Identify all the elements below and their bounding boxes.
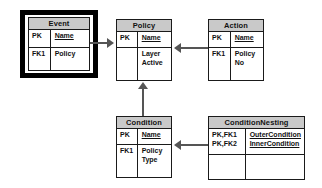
- entity-conditionnesting-attribute-list: OuterCondition InnerCondition: [246, 129, 304, 154]
- entity-policy-body-key: [117, 48, 138, 81]
- entity-event[interactable]: Event PK Name FK1 Policy: [28, 17, 90, 71]
- entity-policy-attr-section: Layer Active: [117, 48, 171, 81]
- entity-condition-attribute-1: Policy: [142, 147, 169, 156]
- entity-event-fk-attribute: Policy: [51, 48, 89, 71]
- entity-action-title: Action: [209, 20, 263, 32]
- entity-condition[interactable]: Condition PK Name FK1 Policy Type: [116, 116, 172, 178]
- entity-policy-pk-attribute: Name: [138, 32, 171, 47]
- entity-event-title: Event: [29, 18, 89, 30]
- entity-policy-key-section: PK Name: [117, 32, 171, 48]
- entity-action-attr-section: FK1 Policy No: [209, 48, 263, 81]
- entity-conditionnesting-attr-section: [209, 155, 304, 179]
- entity-event-key-section: PK Name: [29, 30, 89, 48]
- entity-action-attribute-2: No: [235, 59, 261, 68]
- entity-policy-pk-key: PK: [117, 32, 138, 47]
- entity-policy-title: Policy: [117, 20, 171, 32]
- entity-policy-attribute-1: Layer: [142, 50, 169, 59]
- entity-event-attr-section: FK1 Policy: [29, 48, 89, 71]
- relationship-arrow-action-policy: [174, 43, 181, 53]
- entity-conditionnesting-title: ConditionNesting: [209, 117, 304, 129]
- entity-conditionnesting-key-list: PK,FK1 PK,FK2: [209, 129, 246, 154]
- entity-condition-attribute-list: Policy Type: [138, 145, 171, 178]
- entity-policy[interactable]: Policy PK Name Layer Active: [116, 19, 172, 81]
- entity-condition-key-section: PK Name: [117, 129, 171, 145]
- entity-conditionnesting-key-1: PK,FK1: [212, 131, 243, 140]
- entity-action-attribute-1: Policy: [235, 50, 261, 59]
- entity-action-attribute-list: Policy No: [231, 48, 263, 81]
- entity-conditionnesting-body-attribute: [246, 155, 304, 179]
- entity-condition-pk-attribute: Name: [138, 129, 171, 144]
- entity-action-pk-key: PK: [209, 32, 231, 47]
- entity-condition-title: Condition: [117, 117, 171, 129]
- entity-policy-attribute-list: Layer Active: [138, 48, 171, 81]
- entity-condition-attribute-2: Type: [142, 156, 169, 165]
- entity-action-key-section: PK Name: [209, 32, 263, 48]
- entity-policy-attribute-2: Active: [142, 59, 169, 68]
- entity-conditionnesting[interactable]: ConditionNesting PK,FK1 PK,FK2 OuterCond…: [208, 116, 305, 180]
- entity-event-pk-attribute: Name: [51, 30, 89, 47]
- entity-condition-pk-key: PK: [117, 129, 138, 144]
- entity-action-fk-key: FK1: [209, 48, 231, 81]
- relationship-arrow-conditionnesting-condition: [174, 140, 181, 150]
- entity-event-pk-key: PK: [29, 30, 51, 47]
- relationship-line-action-policy: [180, 47, 209, 49]
- entity-conditionnesting-attribute-1: OuterCondition: [250, 131, 302, 140]
- entity-condition-attr-section: FK1 Policy Type: [117, 145, 171, 178]
- er-diagram-canvas: Event PK Name FK1 Policy Policy PK Name …: [0, 0, 322, 188]
- relationship-arrow-event-policy: [107, 38, 114, 48]
- relationship-arrow-condition-policy: [138, 82, 148, 89]
- entity-action[interactable]: Action PK Name FK1 Policy No: [208, 19, 264, 81]
- entity-conditionnesting-attribute-2: InnerCondition: [250, 140, 302, 149]
- entity-conditionnesting-key-section: PK,FK1 PK,FK2 OuterCondition InnerCondit…: [209, 129, 304, 155]
- relationship-line-condition-policy: [142, 88, 144, 116]
- relationship-line-conditionnesting-condition: [180, 144, 209, 146]
- entity-conditionnesting-key-2: PK,FK2: [212, 140, 243, 149]
- entity-action-pk-attribute: Name: [231, 32, 263, 47]
- entity-conditionnesting-body-key: [209, 155, 246, 179]
- entity-condition-fk-key: FK1: [117, 145, 138, 178]
- entity-event-fk-key: FK1: [29, 48, 51, 71]
